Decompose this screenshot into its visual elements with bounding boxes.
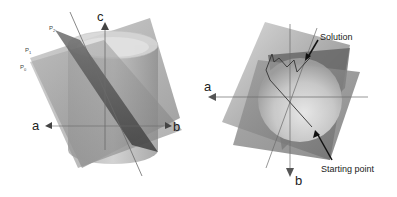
right-axis-a-label: a: [204, 79, 212, 94]
diagram-canvas: c a b P 2 P 1 P 0 a b: [0, 0, 397, 197]
axis-a-label: a: [32, 118, 40, 133]
left-diagram: c a b P 2 P 1 P 0: [20, 9, 182, 176]
axis-c-label: c: [97, 9, 104, 24]
right-axis-b-label: b: [295, 173, 302, 188]
right-diagram: a b Solution Starting point: [204, 22, 375, 188]
plane-label-p2: P 2: [49, 25, 56, 33]
sphere: [258, 58, 342, 142]
svg-text:1: 1: [29, 50, 32, 55]
axis-a-arrowhead: [45, 122, 52, 129]
axis-b-label: b: [173, 119, 180, 134]
plane-label-p0: P 0: [20, 64, 27, 72]
right-axis-a-arrowhead: [208, 93, 216, 101]
solution-label: Solution: [320, 32, 353, 42]
right-axis-b-arrowhead: [286, 168, 294, 177]
plane-label-p1: P 1: [25, 47, 32, 55]
svg-text:0: 0: [24, 67, 27, 72]
starting-point-label: Starting point: [321, 164, 375, 174]
